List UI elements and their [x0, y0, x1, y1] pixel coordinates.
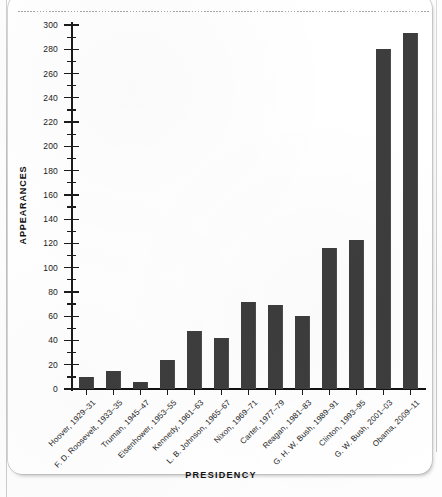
y-tick-label: 0: [18, 384, 58, 394]
y-tick-minor: [67, 231, 76, 232]
y-tick-major: [64, 73, 79, 74]
x-tick: [140, 390, 141, 395]
y-tick-major: [64, 121, 79, 122]
y-tick-major: [64, 24, 79, 25]
y-tick-label: 100: [18, 263, 58, 273]
y-tick-label: 40: [18, 335, 58, 345]
bar: [241, 302, 255, 389]
y-tick-minor: [67, 158, 76, 159]
bar: [322, 248, 336, 389]
scanned-page: APPEARANCES 0204060801001201401601802002…: [0, 0, 442, 497]
y-tick-major: [64, 146, 79, 147]
y-tick-minor: [67, 328, 76, 329]
x-tick-label: Reagan, 1981–83: [260, 398, 312, 450]
y-tick-major: [64, 97, 79, 98]
bar-chart: APPEARANCES 0204060801001201401601802002…: [0, 0, 442, 497]
y-tick-minor: [67, 206, 76, 207]
bar: [349, 240, 363, 389]
x-tick: [113, 390, 114, 395]
y-tick-label: 280: [18, 44, 58, 54]
x-tick: [194, 390, 195, 395]
x-tick-label: Obama, 2009–11: [370, 398, 421, 449]
y-tick-minor: [67, 255, 76, 256]
y-tick-label: 300: [18, 20, 58, 30]
bar: [79, 377, 93, 389]
y-tick-label: 140: [18, 214, 58, 224]
y-tick-minor: [67, 85, 76, 86]
x-tick-label: Hoover, 1929–31: [46, 398, 97, 449]
y-tick-major: [64, 170, 79, 171]
bar: [268, 305, 282, 389]
y-tick-label: 80: [18, 287, 58, 297]
y-tick-major: [64, 219, 79, 220]
y-tick-major: [64, 388, 79, 389]
y-tick-major: [64, 194, 79, 195]
y-tick-minor: [67, 134, 76, 135]
y-tick-major: [64, 243, 79, 244]
y-tick-major: [64, 364, 79, 365]
bar: [160, 360, 174, 389]
y-tick-minor: [67, 182, 76, 183]
y-axis-title: APPEARANCES: [18, 135, 28, 275]
y-tick-label: 60: [18, 311, 58, 321]
bar: [214, 338, 228, 389]
bar: [376, 49, 390, 389]
y-tick-major: [64, 340, 79, 341]
x-tick-label: Clinton, 1993–95: [317, 398, 367, 448]
x-tick: [86, 390, 87, 395]
y-tick-label: 160: [18, 190, 58, 200]
x-tick: [383, 390, 384, 395]
bar: [106, 371, 120, 389]
x-tick: [248, 390, 249, 395]
bar: [295, 316, 309, 389]
y-tick-minor: [67, 109, 76, 110]
y-tick-label: 120: [18, 238, 58, 248]
bar: [187, 331, 201, 389]
y-tick-minor: [67, 279, 76, 280]
bar: [133, 382, 147, 389]
y-tick-label: 260: [18, 69, 58, 79]
y-tick-major: [64, 267, 79, 268]
x-tick: [410, 390, 411, 395]
x-axis-title: PRESIDENCY: [0, 470, 442, 480]
y-tick-label: 20: [18, 360, 58, 370]
bar: [403, 33, 417, 389]
y-tick-minor: [67, 303, 76, 304]
x-tick: [167, 390, 168, 395]
y-tick-label: 240: [18, 93, 58, 103]
x-tick: [302, 390, 303, 395]
x-tick: [329, 390, 330, 395]
y-tick-label: 180: [18, 166, 58, 176]
y-tick-minor: [67, 37, 76, 38]
y-tick-major: [64, 291, 79, 292]
x-tick: [356, 390, 357, 395]
y-tick-minor: [67, 61, 76, 62]
x-tick-label: Kennedy, 1961–63: [150, 398, 205, 453]
x-tick: [275, 390, 276, 395]
x-tick: [221, 390, 222, 395]
y-tick-label: 200: [18, 141, 58, 151]
x-tick-label: Truman, 1945–47: [99, 398, 151, 450]
y-tick-minor: [67, 376, 76, 377]
y-tick-major: [64, 49, 79, 50]
y-tick-minor: [67, 352, 76, 353]
y-tick-major: [64, 316, 79, 317]
y-tick-label: 220: [18, 117, 58, 127]
